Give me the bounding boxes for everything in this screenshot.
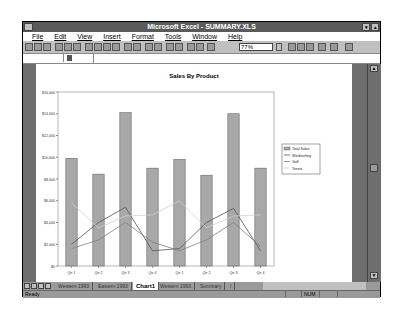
undo-icon[interactable] (124, 43, 132, 51)
maximize-button[interactable]: ▴ (371, 23, 379, 31)
name-box-dropdown-icon[interactable] (67, 55, 72, 61)
format-painter-icon[interactable] (112, 43, 120, 51)
cut-icon[interactable] (85, 43, 93, 51)
menu-window[interactable]: Window (192, 32, 217, 41)
y-tick-label: $0 (51, 265, 55, 269)
help-icon[interactable] (297, 43, 305, 51)
scroll-up-icon[interactable]: ▲ (370, 65, 378, 72)
tab-western-1993[interactable]: Western 1993 (55, 282, 93, 290)
menu-format[interactable]: Format (132, 32, 154, 41)
minimize-button[interactable]: ▾ (362, 23, 370, 31)
copy-icon[interactable] (94, 43, 102, 51)
print-preview-icon[interactable] (64, 43, 72, 51)
scroll-down-icon[interactable]: ▼ (370, 272, 378, 279)
next-sheet-icon[interactable] (38, 283, 44, 289)
status-cell-3 (319, 291, 336, 297)
sort-ascending-icon[interactable] (166, 43, 174, 51)
bar-total-sales (255, 168, 266, 266)
legend-entry: Windsurfing (292, 154, 311, 158)
excel-window: Microsoft Excel - SUMMARY.XLS ▾ ▴ File E… (22, 21, 381, 297)
text-box-icon[interactable] (196, 43, 204, 51)
status-cell-4 (337, 291, 354, 297)
bar-total-sales (147, 168, 158, 266)
zoom-control[interactable]: 77% (239, 43, 273, 51)
x-tick-label: Qtr 3 (122, 271, 130, 275)
chart-title: Sales By Product (169, 73, 218, 79)
x-tick-label: Qtr 3 (230, 271, 238, 275)
formula-bar (23, 54, 380, 64)
menu-file[interactable]: File (32, 32, 43, 41)
plot-area (58, 92, 274, 266)
new-icon[interactable] (25, 43, 33, 51)
chart-page[interactable]: Sales By Product$0$2,000$4,000$6,000$8,0… (36, 64, 352, 282)
gridlines-icon[interactable] (345, 43, 353, 51)
bar-total-sales (228, 114, 239, 266)
y-tick-label: $14,000 (42, 112, 55, 116)
window-title: Microsoft Excel - SUMMARY.XLS (147, 23, 256, 30)
print-icon[interactable] (55, 43, 63, 51)
save-icon[interactable] (43, 43, 51, 51)
tab-summary[interactable]: Summary (197, 282, 225, 290)
tab-eastern-1993[interactable]: Eastern 1993 (95, 282, 132, 290)
x-tick-label: Qtr 1 (176, 271, 184, 275)
chart-type-icon[interactable] (306, 43, 314, 51)
menu-bar: File Edit View Insert Format Tools Windo… (23, 32, 380, 41)
bar-total-sales (174, 159, 185, 266)
y-tick-label: $6,000 (44, 199, 55, 203)
x-tick-label: Qtr 1 (68, 271, 76, 275)
zoom-dropdown-icon[interactable] (276, 43, 282, 51)
menu-help[interactable]: Help (228, 32, 242, 41)
last-sheet-icon[interactable] (45, 283, 51, 289)
y-tick-label: $2,000 (44, 243, 55, 247)
x-tick-label: Qtr 4 (149, 271, 157, 275)
prev-sheet-icon[interactable] (31, 283, 37, 289)
chart-sheet-area: Sales By Product$0$2,000$4,000$6,000$8,0… (23, 64, 367, 282)
spelling-icon[interactable] (73, 43, 81, 51)
legend-entry: Tennis (292, 167, 303, 171)
menu-edit[interactable]: Edit (54, 32, 66, 41)
sort-descending-icon[interactable] (175, 43, 183, 51)
system-menu-icon[interactable] (24, 23, 33, 31)
legend-icon[interactable] (330, 43, 338, 51)
y-tick-label: $4,000 (44, 221, 55, 225)
legend-entry: Total Sales (292, 147, 310, 151)
title-bar: Microsoft Excel - SUMMARY.XLS ▾ ▴ (23, 22, 380, 32)
chart[interactable]: Sales By Product$0$2,000$4,000$6,000$8,0… (36, 64, 352, 282)
vertical-scrollbar[interactable]: ▲ ▼ (367, 64, 381, 282)
menu-view[interactable]: View (77, 32, 92, 41)
menu-tools[interactable]: Tools (165, 32, 181, 41)
bar-total-sales (66, 158, 77, 266)
x-tick-label: Qtr 4 (257, 271, 265, 275)
y-tick-label: $10,000 (42, 156, 55, 160)
chart-wizard-icon[interactable] (187, 43, 195, 51)
status-cell-1 (285, 291, 302, 297)
x-tick-label: Qtr 2 (203, 271, 211, 275)
default-chart-icon[interactable] (318, 43, 326, 51)
status-text: Ready (25, 291, 39, 297)
y-tick-label: $12,000 (42, 134, 55, 138)
y-tick-label: $16,000 (42, 91, 55, 95)
legend-entry: Golf (292, 160, 299, 164)
y-tick-label: $8,000 (44, 178, 55, 182)
x-tick-label: Qtr 2 (95, 271, 103, 275)
bar-total-sales (120, 113, 131, 266)
formula-divider (93, 54, 94, 63)
standard-toolbar: 77% (23, 41, 380, 54)
tip-wizard-icon[interactable] (288, 43, 296, 51)
horizontal-scrollbar[interactable] (263, 282, 366, 290)
scroll-thumb[interactable] (370, 164, 378, 172)
menu-insert[interactable]: Insert (103, 32, 121, 41)
tab-western-1993-b[interactable]: Western 1993 (157, 282, 195, 290)
sheet-tab-bar: Western 1993 Eastern 1993 Chart1 Western… (23, 282, 380, 290)
name-box[interactable] (23, 54, 64, 62)
tab-extra[interactable]: / (227, 282, 235, 290)
first-sheet-icon[interactable] (24, 283, 30, 289)
status-bar: Ready NUM (23, 290, 380, 298)
tab-chart1[interactable]: Chart1 (133, 282, 159, 290)
function-wizard-icon[interactable] (154, 43, 162, 51)
paste-icon[interactable] (103, 43, 111, 51)
drawing-icon[interactable] (207, 43, 215, 51)
open-icon[interactable] (34, 43, 42, 51)
autosum-icon[interactable] (145, 43, 153, 51)
redo-icon[interactable] (133, 43, 141, 51)
